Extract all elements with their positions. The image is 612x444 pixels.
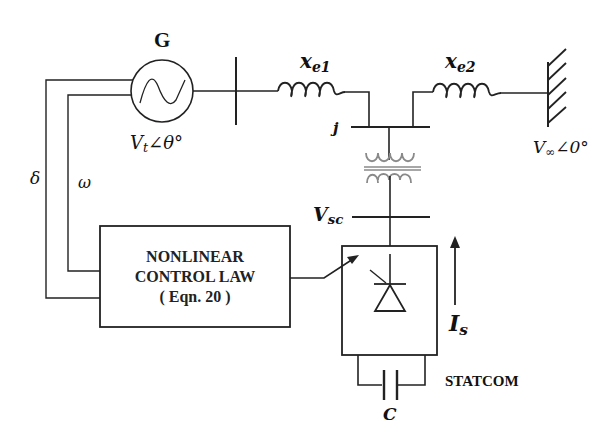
xe2-sub: e2 bbox=[457, 59, 476, 75]
control-law-text: NONLINEAR CONTROL LAW ( Eqn. 20 ) bbox=[100, 226, 290, 327]
is-i: I bbox=[449, 310, 459, 336]
omega-label: ω bbox=[78, 175, 91, 191]
vsc-sub: sc bbox=[328, 212, 344, 227]
xe2-label: xe2 bbox=[445, 51, 476, 74]
infinite-bus-label: V∞∠0° bbox=[533, 139, 589, 159]
transformer-symbol bbox=[364, 153, 421, 183]
cap-left-lead bbox=[358, 355, 382, 385]
inf-v: V bbox=[533, 137, 545, 157]
inf-v-sub: ∞ bbox=[545, 145, 555, 159]
xe1-x: x bbox=[300, 49, 312, 73]
generator-label: G bbox=[154, 30, 170, 51]
delta-label: δ bbox=[30, 170, 40, 187]
current-arrow-head-icon bbox=[450, 236, 460, 248]
gen-v: V bbox=[130, 132, 143, 153]
inf-angle: ∠0° bbox=[555, 137, 589, 157]
vsc-label: Vsc bbox=[313, 205, 343, 227]
control-line-3: ( Eqn. 20 ) bbox=[159, 287, 230, 307]
generator-voltage-label: Vt∠θ° bbox=[130, 134, 183, 155]
control-output-line bbox=[290, 259, 353, 278]
inductor-xe2 bbox=[433, 84, 501, 98]
xe2-x: x bbox=[445, 49, 457, 73]
is-label: Is bbox=[449, 312, 468, 338]
xe1-label: xe1 bbox=[300, 51, 331, 74]
sine-wave-icon bbox=[140, 79, 185, 103]
bus-j-label: j bbox=[333, 121, 338, 136]
control-line-1: NONLINEAR bbox=[146, 247, 244, 267]
xe1-to-bus-j bbox=[345, 92, 369, 127]
bus-j-to-xe2 bbox=[413, 92, 433, 127]
ground-hatch-icon bbox=[548, 49, 566, 123]
generator-symbol bbox=[131, 60, 193, 122]
gto-triangle bbox=[375, 285, 405, 311]
capacitor-label: C bbox=[383, 406, 397, 423]
vsc-v: V bbox=[313, 203, 328, 225]
inductor-xe1 bbox=[278, 83, 345, 97]
is-sub: s bbox=[459, 321, 468, 339]
gto-gate bbox=[370, 270, 386, 283]
statcom-label: STATCOM bbox=[445, 374, 519, 389]
cap-right-lead bbox=[398, 355, 425, 385]
xe1-sub: e1 bbox=[312, 59, 331, 75]
control-line-2: CONTROL LAW bbox=[135, 267, 255, 287]
gen-v-angle: ∠θ° bbox=[148, 132, 183, 153]
